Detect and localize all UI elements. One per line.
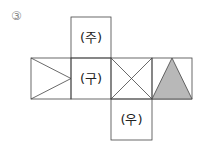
face-top-text: (주) [80, 30, 102, 45]
face-left [31, 58, 71, 99]
face-middle-text: (구) [80, 71, 102, 86]
face-bottom-text: (우) [120, 112, 142, 127]
cube-net-diagram: (주) (구) (우) [0, 0, 206, 152]
shaded-triangle [152, 58, 192, 99]
left-triangle-lines [31, 58, 71, 99]
